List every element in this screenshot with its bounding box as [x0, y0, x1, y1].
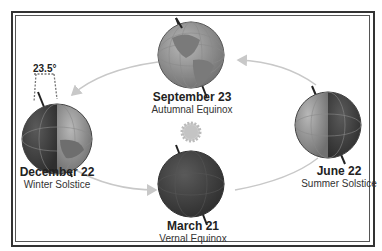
label-june: June 22 Summer Solstice	[300, 165, 378, 189]
globe-june-icon	[295, 86, 361, 164]
date-march: March 21	[158, 220, 228, 233]
date-september: September 23	[148, 91, 236, 104]
date-december: December 22	[18, 166, 96, 179]
orbit-diagram	[0, 0, 382, 251]
event-march: Vernal Equinox	[158, 233, 228, 244]
event-june: Summer Solstice	[300, 178, 378, 189]
event-december: Winter Solstice	[18, 179, 96, 190]
label-december: December 22 Winter Solstice	[18, 166, 96, 190]
globe-september-icon	[158, 18, 224, 98]
label-march: March 21 Vernal Equinox	[158, 220, 228, 244]
sun-icon	[182, 123, 200, 141]
tilt-angle-label: 23.5°	[33, 63, 56, 74]
globe-march-icon	[158, 145, 224, 225]
globe-december-icon	[22, 74, 92, 177]
event-september: Autumnal Equinox	[148, 104, 236, 115]
label-september: September 23 Autumnal Equinox	[148, 91, 236, 115]
date-june: June 22	[300, 165, 378, 178]
